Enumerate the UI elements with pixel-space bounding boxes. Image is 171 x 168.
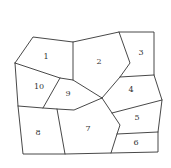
region-label-3: 3 [138,48,143,57]
region-label-8: 8 [35,128,40,137]
edge-8-7 [57,109,65,154]
edge-10-9 [43,78,60,108]
region-label-1: 1 [43,52,48,61]
region-label-2: 2 [96,57,101,66]
region-label-10: 10 [34,82,44,91]
region-label-5: 5 [134,113,139,122]
edge-7-right [102,98,120,153]
region-labels: 1 2 3 4 5 6 7 8 9 10 [34,48,144,147]
edge-4-5 [112,100,162,113]
region-map-diagram: 1 2 3 4 5 6 7 8 9 10 [0,0,171,168]
edge-5-6 [117,132,158,134]
edge-3-4 [120,75,154,77]
edge-10-8 [18,98,102,110]
region-label-4: 4 [128,85,133,94]
region-label-7: 7 [85,124,90,133]
region-label-6: 6 [133,138,138,147]
region-label-9: 9 [65,89,70,98]
edge-2-3 [102,32,130,98]
